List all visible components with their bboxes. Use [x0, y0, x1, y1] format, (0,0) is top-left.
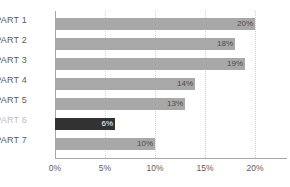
bar-row: PART 414% — [55, 74, 270, 94]
bar-value-label: 20% — [235, 18, 253, 30]
bar — [55, 78, 195, 90]
x-tick-label: 10% — [146, 163, 163, 174]
x-tick-label: 15% — [196, 163, 213, 174]
bar-row: PART 513% — [55, 94, 270, 114]
category-label: PART 2 — [0, 34, 27, 46]
bar-row: PART 218% — [55, 34, 270, 54]
x-tick-label: 0% — [49, 163, 61, 174]
bar-value-label: 13% — [165, 98, 183, 110]
bar — [55, 58, 245, 70]
category-label: PART 5 — [0, 94, 27, 106]
bar-row: PART 120% — [55, 14, 270, 34]
bar-row: PART 66% — [55, 114, 270, 134]
bar-value-label: 10% — [135, 138, 153, 150]
bar-row: PART 319% — [55, 54, 270, 74]
x-tick-label: 20% — [246, 163, 263, 174]
category-label: PART 7 — [0, 134, 27, 146]
bar-value-label: 14% — [175, 78, 193, 90]
bar — [55, 18, 255, 30]
category-label: PART 6 — [0, 114, 27, 126]
category-label: PART 3 — [0, 54, 27, 66]
x-tick-label: 5% — [99, 163, 111, 174]
bar-value-label: 18% — [215, 38, 233, 50]
bar-value-label: 19% — [225, 58, 243, 70]
category-label: PART 4 — [0, 74, 27, 86]
bar-row: PART 710% — [55, 134, 270, 154]
x-axis-line — [55, 158, 287, 159]
category-label: PART 1 — [0, 14, 27, 26]
bar-chart: PART 120%PART 218%PART 319%PART 414%PART… — [0, 0, 290, 187]
bar — [55, 38, 235, 50]
plot-area: PART 120%PART 218%PART 319%PART 414%PART… — [55, 14, 270, 158]
bar-value-label: 6% — [95, 118, 113, 130]
